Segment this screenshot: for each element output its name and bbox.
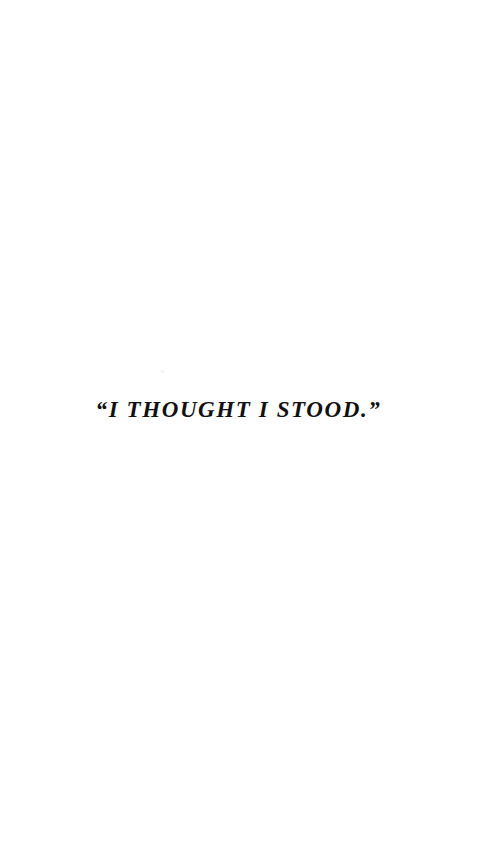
scanned-page: “I THOUGHT I STOOD.”	[0, 0, 501, 848]
plate-caption: “I THOUGHT I STOOD.”	[0, 396, 501, 424]
caption-text: “I THOUGHT I STOOD.”	[96, 396, 382, 424]
scan-speck	[161, 370, 164, 373]
